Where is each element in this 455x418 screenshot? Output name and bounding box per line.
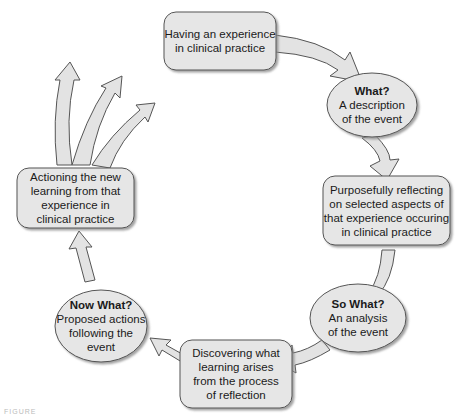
node-line: Proposed actions — [57, 312, 146, 326]
node-line: in clinical practice — [341, 225, 431, 239]
node-line: An analysis — [329, 311, 388, 325]
node-line: Actioning the new — [30, 170, 121, 184]
node-line: of reflection — [206, 388, 265, 402]
node-experience: Having an experience in clinical practic… — [164, 12, 276, 70]
node-line: Discovering what — [192, 346, 280, 360]
node-title: Now What? — [70, 298, 133, 312]
node-title: So What? — [331, 297, 384, 311]
node-line: following the — [69, 326, 133, 340]
node-discovering: Discovering what learning arises from th… — [180, 340, 292, 408]
figure-caption: FIGURE — [4, 408, 36, 415]
arrow-what-to-reflecting — [362, 135, 399, 180]
node-what: What? A description of the event — [327, 73, 417, 137]
arrow-out-1 — [55, 62, 80, 165]
node-line: learning from that — [31, 184, 121, 198]
node-line: A description — [339, 98, 405, 112]
node-line: that experience occuring — [324, 211, 449, 225]
node-line: clinical practice — [37, 212, 115, 226]
node-line: on selected aspects of — [329, 197, 443, 211]
node-actioning: Actioning the new learning from that exp… — [17, 168, 134, 228]
node-line: Purposefully reflecting — [330, 183, 443, 197]
node-line: of the event — [342, 112, 402, 126]
node-now-what: Now What? Proposed actions following the… — [55, 290, 147, 362]
node-line: learning arises — [199, 360, 274, 374]
node-line: in clinical practice — [175, 41, 265, 55]
node-line: experience in — [41, 198, 109, 212]
node-reflecting: Purposefully reflecting on selected aspe… — [323, 176, 450, 245]
node-title: What? — [354, 84, 389, 98]
node-so-what: So What? An analysis of the event — [310, 284, 406, 352]
node-line: from the process — [193, 374, 279, 388]
node-line: Having an experience — [164, 27, 275, 41]
node-line: of the event — [328, 325, 388, 339]
node-line: event — [87, 340, 115, 354]
arrow-nowwhat-to-actioning — [69, 231, 95, 282]
